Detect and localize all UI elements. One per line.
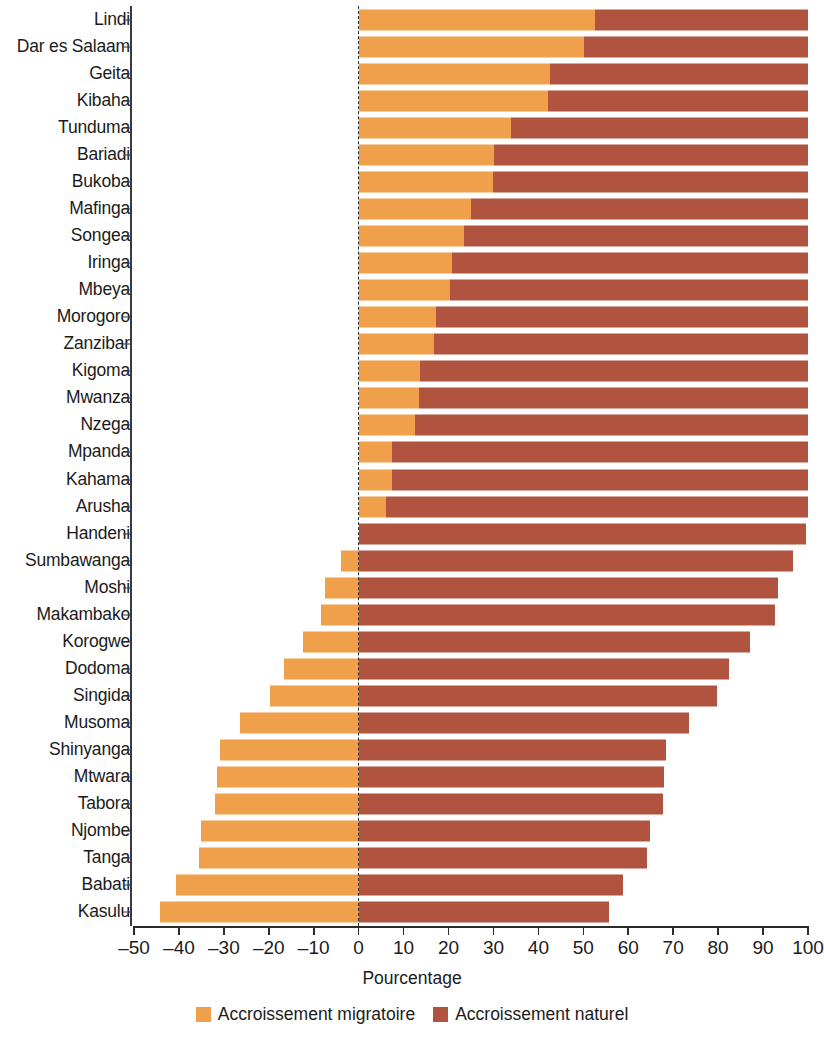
y-axis-tick — [123, 127, 131, 128]
bar-row: Iringa — [0, 250, 824, 277]
bar-segment-migratoire — [359, 198, 471, 219]
x-axis-tick-label: 10 — [393, 938, 414, 957]
bar-segment-naturel — [493, 171, 808, 192]
y-axis-tick — [123, 46, 131, 47]
x-axis-tick — [358, 926, 360, 935]
y-axis-tick — [123, 208, 131, 209]
bar-segment-migratoire — [359, 144, 494, 165]
x-axis-tick — [223, 926, 225, 935]
bar-segment-naturel — [436, 307, 808, 328]
y-axis-tick — [123, 885, 131, 886]
bar-segment-naturel — [359, 550, 793, 571]
bar-row: Mwanza — [0, 385, 824, 412]
y-axis-tick — [123, 750, 131, 751]
bar-row: Njombe — [0, 818, 824, 845]
x-axis-tick-label: 60 — [618, 938, 639, 957]
legend-swatch — [196, 1007, 211, 1022]
bar-segment-migratoire — [359, 36, 585, 57]
y-axis-category-label: Musoma — [64, 714, 130, 732]
bar-segment-migratoire — [220, 740, 359, 761]
bar-segment-migratoire — [176, 875, 359, 896]
y-axis-category-label: Kahama — [66, 471, 130, 489]
bar-segment-migratoire — [359, 90, 549, 111]
x-axis-tick — [538, 926, 540, 935]
bar-segment-naturel — [452, 253, 808, 274]
bar-segment-naturel — [450, 280, 808, 301]
bar-row: Lindi — [0, 6, 824, 33]
y-axis-tick — [123, 398, 131, 399]
bar-segment-naturel — [359, 685, 718, 706]
bar-segment-naturel — [359, 875, 623, 896]
bar-segment-naturel — [584, 36, 808, 57]
x-axis-tick-label: –10 — [298, 938, 330, 957]
bar-row: Makambako — [0, 601, 824, 628]
y-axis-category-label: Makambako — [36, 606, 130, 624]
x-axis-tick — [268, 926, 270, 935]
bar-row: Babati — [0, 872, 824, 899]
bar-segment-migratoire — [341, 550, 359, 571]
bar-segment-naturel — [419, 388, 808, 409]
bar-row: Kibaha — [0, 87, 824, 114]
bar-segment-migratoire — [215, 794, 358, 815]
bar-row: Kigoma — [0, 358, 824, 385]
bar-row: Bukoba — [0, 168, 824, 195]
x-axis-tick-label: 80 — [708, 938, 729, 957]
bar-segment-naturel — [359, 848, 647, 869]
y-axis-category-label: Zanzibar — [64, 335, 131, 353]
x-axis-tick-label: 70 — [663, 938, 684, 957]
y-axis-category-label: Mtwara — [74, 768, 130, 786]
bar-segment-migratoire — [359, 280, 451, 301]
y-axis-tick — [123, 641, 131, 642]
y-axis-category-label: Mafinga — [69, 200, 130, 218]
y-axis-category-label: Arusha — [76, 498, 130, 516]
bar-segment-naturel — [595, 9, 808, 30]
y-axis-tick — [123, 858, 131, 859]
y-axis-category-label: Bukoba — [72, 173, 130, 191]
bar-segment-naturel — [420, 361, 808, 382]
bar-segment-naturel — [392, 469, 808, 490]
bar-segment-migratoire — [325, 577, 358, 598]
bar-segment-naturel — [494, 144, 808, 165]
x-axis-tick-label: –40 — [163, 938, 195, 957]
y-axis-tick — [123, 533, 131, 534]
bar-row: Shinyanga — [0, 737, 824, 764]
y-axis-tick — [123, 452, 131, 453]
bar-segment-naturel — [464, 225, 808, 246]
y-axis-category-label: Songea — [71, 227, 130, 245]
bar-segment-migratoire — [359, 442, 393, 463]
y-axis-tick — [123, 560, 131, 561]
bar-row: Morogoro — [0, 304, 824, 331]
legend-swatch — [433, 1007, 448, 1022]
bar-segment-naturel — [548, 90, 808, 111]
bar-row: Sumbawanga — [0, 547, 824, 574]
bar-segment-naturel — [359, 740, 666, 761]
bar-segment-migratoire — [359, 171, 493, 192]
y-axis-tick — [123, 614, 131, 615]
bar-row: Tunduma — [0, 114, 824, 141]
y-axis-tick — [123, 587, 131, 588]
y-axis-tick — [123, 777, 131, 778]
bar-row: Zanzibar — [0, 331, 824, 358]
bar-segment-naturel — [359, 821, 650, 842]
x-axis-tick — [717, 926, 719, 935]
bar-segment-migratoire — [201, 821, 359, 842]
bar-row: Mbeya — [0, 277, 824, 304]
x-axis-tick-label: –30 — [208, 938, 240, 957]
x-axis-title: Pourcentage — [0, 968, 824, 989]
bar-segment-naturel — [359, 794, 664, 815]
bar-segment-migratoire — [359, 307, 436, 328]
bar-segment-migratoire — [270, 685, 359, 706]
bar-segment-naturel — [359, 767, 665, 788]
bar-segment-naturel — [359, 902, 609, 923]
bar-segment-naturel — [415, 415, 808, 436]
x-axis-tick-label: 20 — [438, 938, 459, 957]
y-axis-category-label: Handeni — [66, 525, 130, 543]
bar-segment-naturel — [359, 713, 689, 734]
bar-row: Bariadi — [0, 141, 824, 168]
bar-row: Songea — [0, 222, 824, 249]
y-axis-tick — [123, 912, 131, 913]
bar-row: Kahama — [0, 466, 824, 493]
legend-item: Accroissement migratoire — [196, 1004, 415, 1025]
bar-segment-migratoire — [359, 415, 415, 436]
bar-segment-migratoire — [359, 225, 465, 246]
